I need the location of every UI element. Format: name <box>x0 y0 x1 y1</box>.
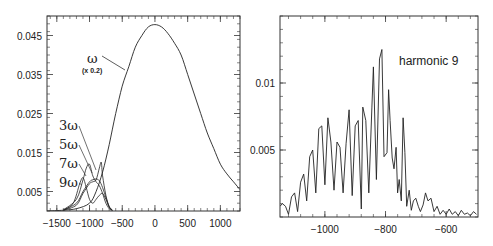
x-tick-label: −1000 <box>75 218 104 229</box>
y-tick-label: 0.005 <box>17 187 42 198</box>
y-tick-label: 0.005 <box>250 145 275 156</box>
label-harmonic-9: harmonic 9 <box>399 54 459 68</box>
y-tick-label: 0.045 <box>17 31 42 42</box>
x-tick-label: 500 <box>179 218 196 229</box>
x-tick-label: −1500 <box>43 218 72 229</box>
y-tick-label: 0.025 <box>17 109 42 120</box>
left-axes: −1500−1000−500050010000.0050.0150.0250.0… <box>17 16 240 229</box>
pointer-7omega <box>79 164 86 176</box>
right-plot-frame <box>280 16 478 217</box>
pointer-omega <box>102 56 125 70</box>
x-tick-label: −1000 <box>311 224 340 235</box>
figure: −1500−1000−500050010000.0050.0150.0250.0… <box>0 0 493 246</box>
left-plot: −1500−1000−500050010000.0050.0150.0250.0… <box>17 16 240 229</box>
series-line <box>280 50 477 216</box>
y-tick-label: 0.01 <box>256 78 276 89</box>
x-tick-label: −800 <box>374 224 397 235</box>
label-9omega: 9ω <box>59 175 78 190</box>
x-tick-label: 1000 <box>209 218 232 229</box>
x-tick-label: 0 <box>152 218 158 229</box>
label-omega: ω <box>87 51 98 66</box>
label-omega-scale: (x 0.2) <box>82 67 102 75</box>
right-axes: −1000−800−6000.0050.01 <box>250 16 478 235</box>
right-plot: −1000−800−6000.0050.01 harmonic 9 <box>250 16 478 235</box>
x-tick-label: −500 <box>111 218 134 229</box>
label-3omega: 3ω <box>59 118 78 133</box>
y-tick-label: 0.035 <box>17 70 42 81</box>
x-tick-label: −600 <box>435 224 458 235</box>
label-7omega: 7ω <box>59 156 78 171</box>
pointer-5omega <box>79 145 92 173</box>
label-5omega: 5ω <box>59 137 78 152</box>
y-tick-label: 0.015 <box>17 148 42 159</box>
right-curves <box>280 50 477 216</box>
